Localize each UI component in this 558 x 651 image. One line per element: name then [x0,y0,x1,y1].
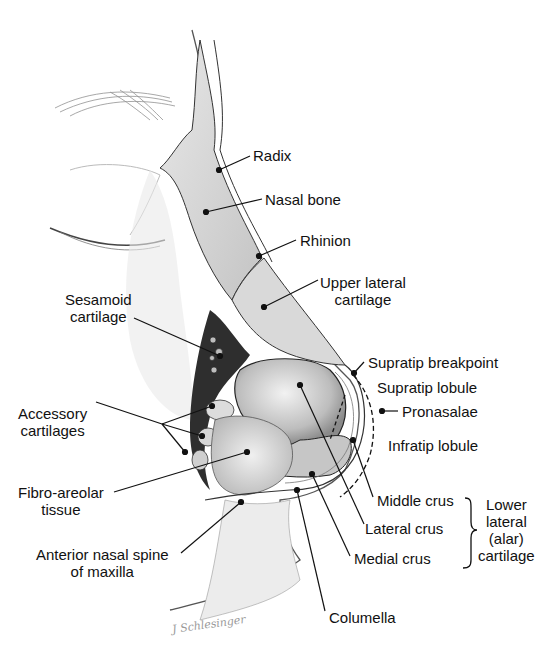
label-columella: Columella [329,609,396,626]
label-upper-lateral-line1: Upper lateral [320,274,406,291]
label-fibro-line2: tissue [18,501,104,518]
label-upper-lateral-line2: cartilage [320,291,406,308]
label-lower-lateral-line2: lateral [478,513,535,530]
label-supratip-breakpoint: Supratip breakpoint [368,354,498,371]
lower-lateral-brace [463,498,477,568]
label-anterior-nasal-spine: Anterior nasal spine of maxilla [36,546,169,580]
label-lower-lateral-line1: Lower [478,496,535,513]
label-sesamoid-line1: Sesamoid [65,291,132,308]
label-lower-lateral-cartilage: Lower lateral (alar) cartilage [478,496,535,564]
label-sesamoid-cartilage: Sesamoid cartilage [65,291,132,325]
label-middle-crus: Middle crus [377,492,454,509]
label-fibro-line1: Fibro-areolar [18,484,104,501]
label-accessory-line1: Accessory [18,405,87,422]
eyebrow [55,90,175,120]
label-supratip-lobule: Supratip lobule [377,379,477,396]
label-infratip-lobule: Infratip lobule [388,437,478,454]
accessory-cartilage-3 [192,450,208,470]
label-radix: Radix [253,147,291,164]
label-ans-line2: of maxilla [36,563,169,580]
columella-lip [200,500,300,620]
nasal-anatomy-figure: Radix Nasal bone Rhinion Upper lateral c… [0,0,558,651]
label-pronasalae: Pronasalae [402,403,478,420]
label-ans-line1: Anterior nasal spine [36,546,169,563]
label-accessory-cartilages: Accessory cartilages [18,405,87,439]
label-lateral-crus: Lateral crus [365,520,443,537]
label-fibro-areolar-tissue: Fibro-areolar tissue [18,484,104,518]
label-sesamoid-line2: cartilage [65,308,132,325]
label-upper-lateral-cartilage: Upper lateral cartilage [320,274,406,308]
label-accessory-line2: cartilages [18,422,87,439]
label-lower-lateral-line3: (alar) [478,530,535,547]
label-medial-crus: Medial crus [354,550,431,567]
label-nasal-bone: Nasal bone [265,191,341,208]
label-lower-lateral-line4: cartilage [478,547,535,564]
label-rhinion: Rhinion [300,232,351,249]
